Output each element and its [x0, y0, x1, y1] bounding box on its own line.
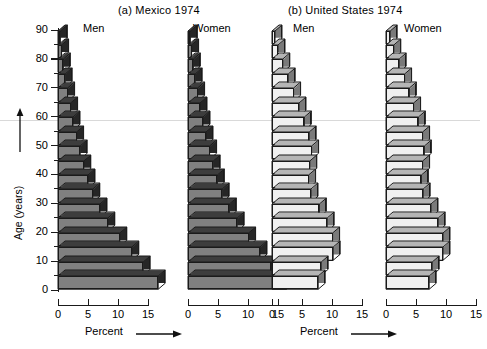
bar-age-0-4	[386, 276, 429, 289]
bar-age-85-89	[386, 31, 390, 44]
bar-front-face	[386, 31, 390, 44]
bar-front-face	[386, 276, 429, 289]
